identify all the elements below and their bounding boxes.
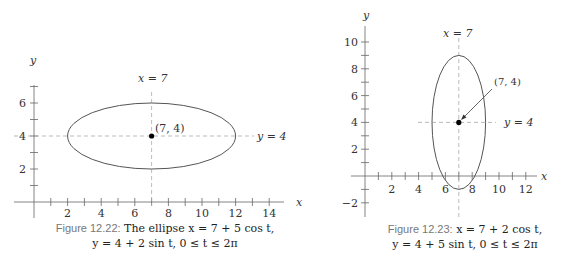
figure-12-22-labels: y x x = 7 y = 4 (7, 4) 2 4 6 8 10 12 14 …: [19, 54, 303, 220]
y-tick-label: 4: [351, 116, 358, 129]
center-point: [456, 120, 461, 125]
x-tick-label: 8: [165, 207, 172, 220]
figure-12-22-plot: [14, 85, 284, 218]
x-tick-label: 14: [262, 207, 276, 220]
figure-number: Figure 12.22:: [56, 222, 121, 234]
x-tick-label: 6: [442, 183, 449, 196]
annotation-arrow: [462, 89, 492, 119]
x-tick-label: 10: [195, 207, 209, 220]
figure-12-23-caption: Figure 12.23: x = 7 + 2 cos t, y = 4 + 5…: [375, 222, 555, 252]
caption-line-2: y = 4 + 5 sin t, 0 ≤ t ≤ 2π: [375, 237, 555, 252]
vline-label: x = 7: [443, 27, 472, 40]
x-tick-label: 4: [98, 207, 105, 220]
x-tick-label: 6: [131, 207, 138, 220]
caption-text: x = 7 + 2 cos t,: [456, 223, 542, 236]
point-label: (7, 4): [494, 76, 521, 87]
hline-label: y = 4: [503, 116, 533, 129]
figure-number: Figure 12.23:: [388, 223, 453, 235]
x-axis-label: x: [296, 196, 303, 209]
y-tick-label: 2: [19, 163, 26, 176]
caption-line-1: Figure 12.22: The ellipse x = 7 + 5 cos …: [40, 221, 290, 236]
x-tick-label: 2: [64, 207, 71, 220]
caption-line-1: Figure 12.23: x = 7 + 2 cos t,: [375, 222, 555, 237]
y-tick-label: 10: [344, 36, 358, 49]
y-tick-label: 6: [19, 97, 26, 110]
y-axis-label: y: [29, 54, 37, 67]
y-tick-label: 6: [351, 90, 358, 103]
x-tick-label: 10: [492, 183, 506, 196]
figure-12-22-caption: Figure 12.22: The ellipse x = 7 + 5 cos …: [40, 221, 290, 251]
vline-label: x = 7: [138, 72, 167, 85]
x-tick-label: 12: [519, 183, 533, 196]
y-tick-label: 8: [351, 63, 358, 76]
y-tick-label: 2: [351, 143, 358, 156]
y-axis-label: y: [362, 9, 370, 22]
y-tick-label: −2: [342, 197, 358, 210]
x-tick-label: 8: [469, 183, 476, 196]
x-tick-label: 2: [388, 183, 395, 196]
x-axis-label: x: [541, 170, 548, 183]
x-tick-label: 12: [229, 207, 243, 220]
caption-text: The ellipse x = 7 + 5 cos t,: [124, 222, 274, 235]
y-tick-label: 4: [19, 130, 26, 143]
hline-label: y = 4: [256, 130, 286, 143]
caption-line-2: y = 4 + 2 sin t, 0 ≤ t ≤ 2π: [40, 236, 290, 251]
point-label: (7, 4): [155, 122, 185, 135]
x-tick-label: 4: [415, 183, 422, 196]
center-point: [149, 133, 154, 138]
